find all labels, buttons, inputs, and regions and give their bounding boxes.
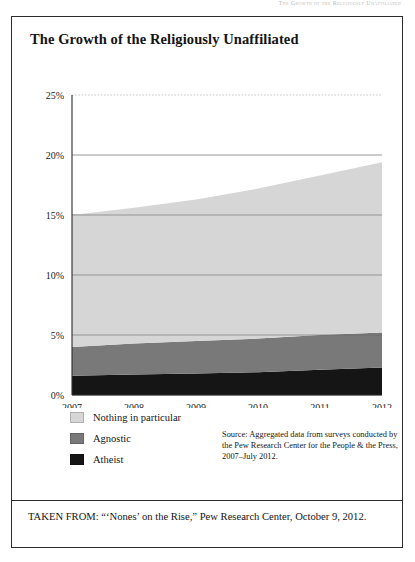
x-axis-tick-label: 2010	[248, 402, 268, 408]
source-note: Source: Aggregated data from surveys con…	[222, 429, 400, 463]
legend-label: Nothing in particular	[93, 412, 181, 423]
y-axis-tick-label: 10%	[46, 270, 64, 281]
legend-item-atheist: Atheist	[70, 449, 210, 470]
figure-box: The Growth of the Religiously Unaffiliat…	[11, 16, 403, 548]
figure-title: The Growth of the Religiously Unaffiliat…	[30, 31, 299, 48]
chart-legend: Nothing in particular Agnostic Atheist	[70, 407, 210, 470]
figure-page: The Growth of the Religiously Unaffiliat…	[0, 0, 415, 562]
y-axis-tick-label: 5%	[51, 330, 64, 341]
x-axis-tick-label: 2012	[372, 402, 392, 408]
legend-swatch-icon	[70, 433, 84, 444]
y-axis-tick-label: 20%	[46, 150, 64, 161]
legend-swatch-icon	[70, 454, 84, 465]
chart-svg: 0%5%10%15%20%25%200720082009201020112012	[12, 63, 402, 408]
legend-label: Agnostic	[93, 433, 131, 444]
y-axis-tick-label: 15%	[46, 210, 64, 221]
area-series	[72, 162, 382, 347]
taken-from-note: TAKEN FROM: “‘Nones’ on the Rise,” Pew R…	[28, 509, 388, 524]
legend-swatch-icon	[70, 412, 84, 423]
footer-divider	[12, 500, 402, 501]
y-axis-tick-label: 0%	[51, 390, 64, 401]
legend-label: Atheist	[93, 454, 123, 465]
x-axis-tick-label: 2011	[310, 402, 330, 408]
running-head: The Growth of the Religiously Unaffiliat…	[0, 0, 415, 14]
legend-item-nothing-in-particular: Nothing in particular	[70, 407, 210, 428]
y-axis-tick-label: 25%	[46, 90, 64, 101]
legend-item-agnostic: Agnostic	[70, 428, 210, 449]
stacked-area-chart: 0%5%10%15%20%25%200720082009201020112012	[12, 63, 402, 408]
